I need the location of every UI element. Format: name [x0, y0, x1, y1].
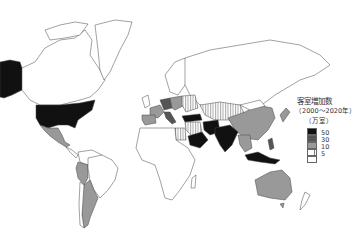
region-greenland: [95, 20, 132, 80]
region-japan: [280, 108, 290, 122]
legend-swatch-10: [307, 142, 317, 149]
legend-ticks: 50 30 10 5: [321, 130, 329, 158]
legend-unit: （万室）: [305, 117, 333, 126]
region-uk: [142, 95, 150, 108]
legend-swatch-blank: [307, 156, 317, 163]
region-canada: [22, 30, 105, 105]
region-mexico: [40, 125, 70, 147]
legend-tick: 5: [321, 151, 329, 158]
legend-title: 客室増加数: [297, 97, 332, 106]
region-tasmania: [280, 203, 284, 208]
legend-swatch-30: [307, 135, 317, 142]
legend-swatch-50: [307, 128, 317, 135]
region-turkey: [182, 114, 202, 122]
region-central-america: [66, 147, 78, 158]
region-eastern-europe: [182, 95, 198, 112]
legend-period: （2000～2020年）: [295, 107, 356, 116]
region-australia: [255, 170, 292, 200]
legend-swatches: [307, 128, 317, 163]
region-new-zealand: [300, 192, 310, 210]
region-madagascar: [191, 175, 196, 188]
region-se-asia: [238, 135, 252, 152]
region-india: [215, 125, 238, 152]
region-indonesia: [245, 152, 280, 164]
region-egypt: [175, 128, 186, 140]
region-spain: [142, 115, 156, 125]
region-alaska: [0, 60, 22, 98]
legend-swatch-5: [307, 149, 317, 156]
region-philippines: [268, 138, 274, 150]
region-italy: [164, 112, 176, 124]
region-peru: [76, 162, 88, 185]
